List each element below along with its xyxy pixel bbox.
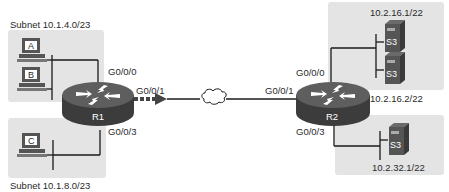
server-3-ip: 10.2.32.1/22 <box>372 163 425 173</box>
cloud-icon <box>202 89 226 104</box>
server-2-icon <box>385 52 405 84</box>
server-1-icon <box>385 20 405 52</box>
server-3-icon <box>389 123 409 155</box>
subnet-label-top: Subnet 10.1.4.0/23 <box>10 20 90 30</box>
server-3-label: S3 <box>390 141 401 150</box>
server-1-label: S3 <box>386 38 397 47</box>
r2-g001-label: G0/0/1 <box>265 86 294 96</box>
router-r1-label: R1 <box>92 112 104 122</box>
r2-g000-label: G0/0/0 <box>296 68 325 78</box>
host-b-label: B <box>28 71 34 80</box>
r1-g000-label: G0/0/0 <box>108 67 137 77</box>
r1-g001-label: G0/0/1 <box>136 86 165 96</box>
server-2-label: S3 <box>386 70 397 79</box>
server-2-ip: 10.2.16.2/22 <box>370 94 423 104</box>
host-a-label: A <box>28 42 34 51</box>
r2-g003-label: G0/0/3 <box>296 127 325 137</box>
r1-g003-label: G0/0/3 <box>108 127 137 137</box>
subnet-label-bottom: Subnet 10.1.8.0/23 <box>10 181 90 191</box>
server-1-ip: 10.2.16.1/22 <box>370 8 423 18</box>
router-r2-label: R2 <box>326 112 338 122</box>
host-c-label: C <box>28 137 35 146</box>
